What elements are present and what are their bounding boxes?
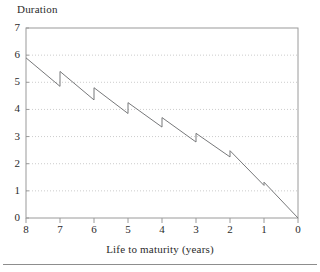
duration-sawtooth-line — [26, 58, 298, 218]
x-axis-tick-label: 6 — [86, 224, 102, 235]
y-axis-tick-label: 2 — [4, 158, 20, 169]
x-axis-tick-label: 5 — [120, 224, 136, 235]
x-axis-tick-label: 1 — [256, 224, 272, 235]
x-axis-tick-label: 8 — [18, 224, 34, 235]
x-axis-tick-label: 7 — [52, 224, 68, 235]
y-axis-tick-label: 7 — [4, 22, 20, 33]
y-axis-tick-label: 0 — [4, 212, 20, 223]
duration-chart-figure: Duration Life to maturity (years) 012345… — [0, 0, 320, 272]
footer-divider — [3, 264, 317, 265]
y-axis-tick-label: 3 — [4, 131, 20, 142]
y-axis-tick-label: 5 — [4, 76, 20, 87]
y-axis-tick-label: 6 — [4, 49, 20, 60]
y-axis-tick-label: 1 — [4, 185, 20, 196]
x-axis-tick-label: 3 — [188, 224, 204, 235]
x-axis-title: Life to maturity (years) — [0, 243, 320, 255]
y-axis-tick-label: 4 — [4, 103, 20, 114]
x-axis-tick-label: 2 — [222, 224, 238, 235]
x-axis-tick-label: 0 — [290, 224, 306, 235]
x-axis-tick-label: 4 — [154, 224, 170, 235]
